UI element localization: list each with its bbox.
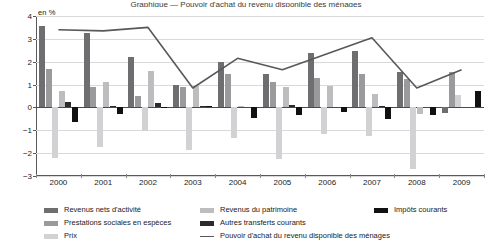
x-axis-tick-mark (350, 174, 351, 178)
x-axis-tick-mark (36, 174, 37, 178)
y-axis-tick-label: 4 (28, 12, 32, 21)
x-axis-tick-mark (484, 174, 485, 178)
legend-color-swatch (44, 234, 58, 239)
legend-column-2: Revenus du patrimoineAutres transferts c… (200, 204, 390, 243)
y-axis-tick-label: −1 (23, 126, 32, 135)
x-axis-tick-label: 2009 (453, 178, 471, 187)
x-axis-tick-label: 2000 (49, 178, 67, 187)
legend-item[interactable]: Prix (44, 230, 171, 242)
purchasing-power-line (58, 27, 461, 88)
legend-label: Prix (64, 230, 77, 242)
x-axis-tick-label: 2003 (184, 178, 202, 187)
legend-color-swatch (44, 221, 58, 226)
x-axis-tick-label: 2008 (408, 178, 426, 187)
legend-label: Revenus nets d'activité (64, 204, 141, 216)
x-axis-tick-label: 2006 (318, 178, 336, 187)
legend-item[interactable]: Revenus du patrimoine (200, 204, 390, 216)
x-axis-tick-label: 2004 (229, 178, 247, 187)
legend-label: Revenus du patrimoine (220, 204, 297, 216)
legend-line-swatch (200, 236, 214, 237)
x-axis-tick-mark (439, 174, 440, 178)
x-axis-tick-mark (260, 174, 261, 178)
x-axis-tick-mark (170, 174, 171, 178)
y-axis-tick-label: 1 (28, 80, 32, 89)
y-axis-tick-label: 2 (28, 57, 32, 66)
y-axis-tick-label: −2 (23, 149, 32, 158)
chart-legend: Revenus nets d'activitéPrestations socia… (44, 204, 484, 246)
legend-item[interactable]: Pouvoir d'achat du revenu disponible des… (200, 230, 390, 242)
legend-label: Prestations sociales en espèces (64, 217, 171, 229)
legend-label: Impôts courants (394, 204, 447, 216)
y-axis-tick-label: 3 (28, 34, 32, 43)
chart-container: Graphique — Pouvoir d'achat du revenu di… (0, 0, 492, 248)
x-axis-tick-mark (305, 174, 306, 178)
legend-color-swatch (374, 208, 388, 213)
legend-label: Autres transferts courants (220, 217, 306, 229)
x-axis-tick-label: 2005 (273, 178, 291, 187)
legend-column-3: Impôts courants (374, 204, 447, 217)
y-axis-tick-label: 0 (28, 103, 32, 112)
x-axis-tick-mark (81, 174, 82, 178)
legend-color-swatch (200, 221, 214, 226)
legend-item[interactable]: Revenus nets d'activité (44, 204, 171, 216)
x-axis-tick-mark (215, 174, 216, 178)
legend-color-swatch (200, 208, 214, 213)
x-axis-tick-mark (394, 174, 395, 178)
legend-item[interactable]: Impôts courants (374, 204, 447, 216)
y-axis-tick-label: −3 (23, 172, 32, 181)
x-axis-tick-label: 2001 (94, 178, 112, 187)
line-series (36, 16, 484, 176)
x-axis-tick-label: 2007 (363, 178, 381, 187)
x-axis-tick-label: 2002 (139, 178, 157, 187)
legend-color-swatch (44, 208, 58, 213)
x-axis-labels: 2000200120022003200420052006200720082009 (36, 178, 484, 190)
legend-column-1: Revenus nets d'activitéPrestations socia… (44, 204, 171, 243)
legend-item[interactable]: Prestations sociales en espèces (44, 217, 171, 229)
legend-item[interactable]: Autres transferts courants (200, 217, 390, 229)
x-axis-tick-mark (126, 174, 127, 178)
chart-title-sliver: Graphique — Pouvoir d'achat du revenu di… (0, 0, 492, 7)
legend-label: Pouvoir d'achat du revenu disponible des… (220, 230, 390, 242)
plot-area: 43210−1−2−3 (36, 16, 484, 176)
